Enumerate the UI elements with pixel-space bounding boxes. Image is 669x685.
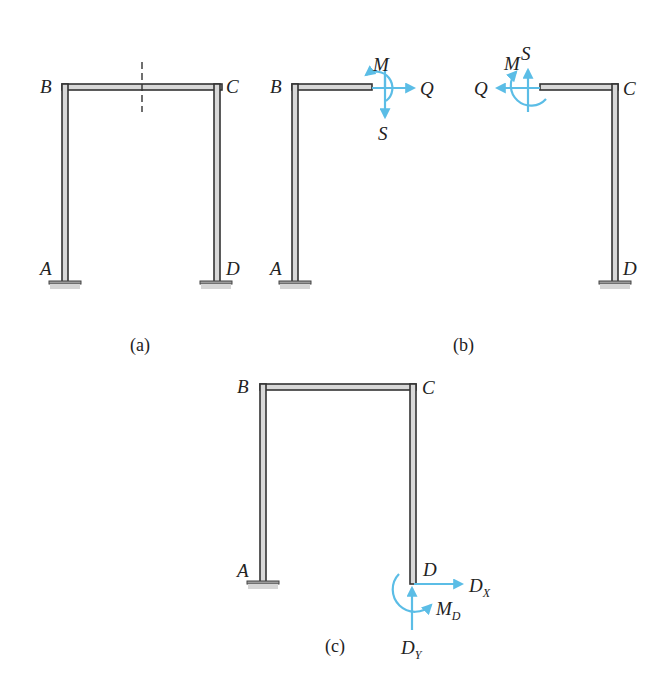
panel-b-right: C D M S Q (b) xyxy=(453,43,637,356)
internal-forces-left xyxy=(366,70,414,117)
label-md: MD xyxy=(435,598,461,623)
label-c: C xyxy=(422,377,435,398)
label-b: B xyxy=(237,376,249,397)
label-a: A xyxy=(268,258,282,279)
panel-c: B C A D DX MD DY (c) xyxy=(235,376,491,662)
frame-c xyxy=(247,384,416,589)
label-axial: Q xyxy=(474,78,488,99)
label-dy: DY xyxy=(400,637,423,662)
label-c: C xyxy=(226,76,239,97)
label-shear: S xyxy=(521,43,531,64)
label-d: D xyxy=(225,258,240,279)
label-a: A xyxy=(38,258,52,279)
label-d: D xyxy=(422,559,437,580)
frame-a xyxy=(49,84,232,289)
caption-a: (a) xyxy=(130,335,150,356)
internal-forces-right xyxy=(497,70,546,112)
label-axial: Q xyxy=(420,78,434,99)
label-moment: M xyxy=(503,53,521,74)
frame-diagram: B C A D (a) B A M Q S C D xyxy=(0,0,669,685)
panel-a: B C A D (a) xyxy=(38,62,240,356)
caption-c: (c) xyxy=(325,636,345,657)
panel-b-left: B A M Q S xyxy=(268,54,434,289)
label-moment: M xyxy=(372,54,390,75)
label-b: B xyxy=(40,76,52,97)
label-dx: DX xyxy=(468,575,491,600)
label-c: C xyxy=(623,78,636,99)
label-a: A xyxy=(235,560,249,581)
label-b: B xyxy=(270,76,282,97)
label-d: D xyxy=(622,258,637,279)
caption-b: (b) xyxy=(453,335,474,356)
label-shear: S xyxy=(378,123,388,144)
